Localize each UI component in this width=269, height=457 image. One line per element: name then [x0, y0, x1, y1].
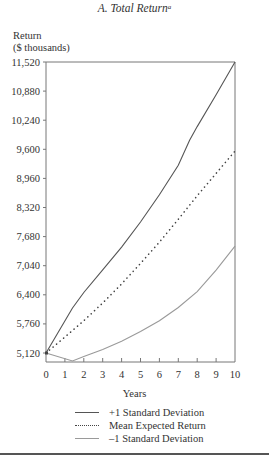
y-tick-label: 7,680	[16, 231, 40, 242]
bottom-rule	[0, 453, 269, 455]
light-line-swatch-icon	[75, 438, 99, 439]
mean-return-line	[46, 151, 235, 353]
legend-label: –1 Standard Deviation	[109, 433, 203, 444]
x-axis-label: Years	[0, 388, 269, 399]
y-tick-label: 9,600	[16, 144, 40, 155]
y-tick-label: 10,880	[11, 86, 40, 97]
x-tick-label: 7	[176, 369, 181, 380]
y-tick-label: 8,960	[16, 173, 40, 184]
legend-label: +1 Standard Deviation	[109, 407, 204, 418]
x-tick-label: 3	[100, 369, 105, 380]
x-tick-label: 1	[62, 369, 67, 380]
legend-item-upper: +1 Standard Deviation	[75, 406, 206, 419]
y-tick-label: 7,040	[16, 260, 40, 271]
x-tick-label: 0	[43, 369, 48, 380]
y-tick-label: 6,400	[16, 289, 40, 300]
upper-sd-line	[46, 62, 235, 353]
y-tick-label: 5,120	[16, 348, 40, 359]
plot-frame	[46, 62, 235, 362]
x-tick-label: 4	[119, 369, 125, 380]
y-tick-label: 5,760	[16, 318, 40, 329]
x-tick-label: 5	[138, 369, 143, 380]
x-tick-label: 10	[230, 369, 241, 380]
lower-sd-line	[46, 246, 235, 361]
x-tick-label: 8	[195, 369, 200, 380]
legend-item-lower: –1 Standard Deviation	[75, 432, 206, 445]
legend-label: Mean Expected Return	[109, 420, 206, 431]
y-tick-label: 8,320	[16, 202, 40, 213]
dotted-line-swatch-icon	[75, 425, 99, 426]
x-tick-label: 9	[213, 369, 218, 380]
origin-marker	[45, 352, 48, 355]
solid-line-swatch-icon	[75, 412, 99, 413]
y-tick-label: 11,520	[12, 57, 41, 68]
x-tick-label: 6	[157, 369, 162, 380]
y-tick-label: 10,240	[11, 115, 40, 126]
legend: +1 Standard Deviation Mean Expected Retu…	[75, 406, 206, 445]
x-tick-label: 2	[81, 369, 86, 380]
legend-item-mean: Mean Expected Return	[75, 419, 206, 432]
chart-plot: 5,1205,7606,4007,0407,6808,3208,9609,600…	[0, 0, 269, 400]
